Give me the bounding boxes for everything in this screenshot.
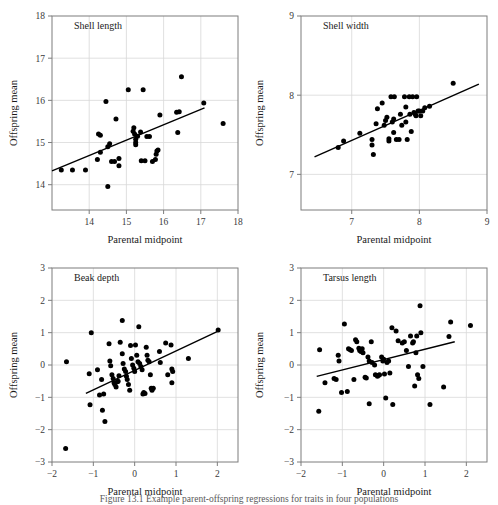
data-point <box>157 349 162 354</box>
data-point <box>370 137 375 142</box>
data-point <box>143 158 148 163</box>
data-point <box>418 303 423 308</box>
data-point <box>118 340 123 345</box>
data-point <box>399 123 404 128</box>
regression-line <box>86 331 218 393</box>
data-point <box>317 347 322 352</box>
data-point <box>413 350 418 355</box>
data-point <box>143 391 148 396</box>
data-point <box>408 333 413 338</box>
x-tick-label: 0 <box>381 469 386 479</box>
x-tick-label: −1 <box>337 469 347 479</box>
data-point <box>387 371 392 376</box>
data-point <box>391 130 396 135</box>
data-point <box>147 134 152 139</box>
data-point <box>138 129 143 134</box>
y-tick-label: −1 <box>35 393 45 403</box>
plot-frame <box>301 16 487 210</box>
data-point <box>441 384 446 389</box>
y-tick-label: 2 <box>289 296 294 306</box>
data-point <box>136 324 141 329</box>
data-point <box>133 142 138 147</box>
data-point <box>100 408 105 413</box>
data-point <box>397 137 402 142</box>
data-point <box>216 328 221 333</box>
data-point <box>427 402 432 407</box>
data-point <box>108 363 113 368</box>
data-point <box>416 376 421 381</box>
figure-panel-grid: 14151617181415161718Shell lengthParental… <box>0 0 498 505</box>
data-point <box>131 125 136 130</box>
data-point <box>127 388 132 393</box>
data-point <box>128 343 133 348</box>
data-point <box>403 105 408 110</box>
data-point <box>169 380 174 385</box>
data-point <box>392 94 397 99</box>
data-point <box>342 321 347 326</box>
x-tick-label: 7 <box>349 217 354 227</box>
data-point <box>404 348 409 353</box>
data-point <box>386 359 391 364</box>
data-point <box>371 152 376 157</box>
data-point <box>451 81 456 86</box>
data-point <box>59 167 64 172</box>
panel-tarsus-length: −3−2−10123−2−1012Tarsus lengthParental m… <box>249 252 498 500</box>
y-axis-label: Offspring mean <box>8 79 19 146</box>
x-tick-label: 2 <box>464 469 469 479</box>
data-point <box>221 121 226 126</box>
data-point <box>418 113 423 118</box>
data-point <box>345 389 350 394</box>
data-point <box>377 372 382 377</box>
axis-ticks: 789789 <box>289 11 489 227</box>
y-tick-label: 0 <box>289 360 294 370</box>
data-point <box>111 376 116 381</box>
axis-ticks: 14151617181415161718 <box>36 11 244 227</box>
x-tick-label: 9 <box>485 217 490 227</box>
data-point <box>398 112 403 117</box>
data-point <box>141 87 146 92</box>
data-point <box>369 339 374 344</box>
data-point <box>134 353 139 358</box>
data-point <box>336 353 341 358</box>
data-point <box>151 386 156 391</box>
data-point <box>382 372 387 377</box>
data-point <box>339 390 344 395</box>
data-point <box>153 157 158 162</box>
data-point <box>116 156 121 161</box>
data-point <box>113 116 118 121</box>
data-point <box>87 371 92 376</box>
data-point <box>370 143 375 148</box>
data-point <box>97 393 102 398</box>
data-point <box>88 402 93 407</box>
data-point <box>411 339 416 344</box>
data-point <box>390 402 395 407</box>
y-tick-label: −3 <box>284 457 294 467</box>
y-axis-label: Offspring mean <box>254 79 265 146</box>
scatter-plot: −3−2−10123−2−1012Beak depthParental midp… <box>0 252 249 500</box>
data-point <box>448 320 453 325</box>
y-tick-label: −1 <box>284 393 294 403</box>
data-point <box>126 382 131 387</box>
panel-title: Shell length <box>74 20 122 31</box>
y-tick-label: 1 <box>40 328 45 338</box>
data-point <box>120 351 125 356</box>
data-point <box>413 113 418 118</box>
data-point <box>414 333 419 338</box>
plot-frame <box>52 16 238 210</box>
data-point <box>186 356 191 361</box>
data-point <box>129 356 134 361</box>
y-tick-label: 3 <box>40 263 45 273</box>
grid-lines <box>301 268 487 462</box>
x-axis-label: Parental midpoint <box>357 234 432 245</box>
data-point <box>165 372 170 377</box>
data-point <box>63 446 68 451</box>
x-tick-label: −2 <box>47 469 57 479</box>
y-tick-label: −3 <box>35 457 45 467</box>
data-point <box>102 419 107 424</box>
data-point <box>427 104 432 109</box>
data-point <box>135 134 140 139</box>
data-point <box>83 167 88 172</box>
data-point <box>170 369 175 374</box>
scatter-plot: 14151617181415161718Shell lengthParental… <box>0 0 249 248</box>
grid-lines <box>301 16 487 210</box>
